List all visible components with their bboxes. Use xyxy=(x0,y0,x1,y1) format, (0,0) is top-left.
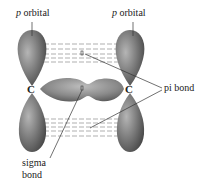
pi-bond-label: pi bond xyxy=(164,83,194,93)
right-p-orbital-upper-lobe xyxy=(116,30,145,86)
pi-overlap-lower xyxy=(44,119,118,136)
pi-center-marker xyxy=(81,51,83,55)
left-p-orbital-lower-lobe xyxy=(19,93,46,152)
sigma-bond-label-line1: sigma xyxy=(22,158,46,168)
p-orbital-left-label: p orbital xyxy=(16,8,50,18)
left-p-orbital-upper-lobe xyxy=(18,30,47,86)
p-orbital-right-label: p orbital xyxy=(112,8,146,18)
carbon-right: C xyxy=(125,84,133,95)
carbon-left: C xyxy=(27,84,35,95)
sigma-bond-label-line2: bond xyxy=(22,170,42,180)
